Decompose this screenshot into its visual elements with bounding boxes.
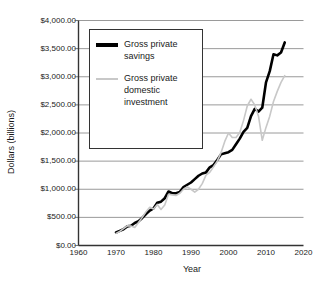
legend-label: Gross private domestic investment <box>124 72 196 108</box>
legend-entry: Gross private domestic investment <box>96 72 196 108</box>
legend-entry: Gross private savings <box>96 38 196 62</box>
chart-container: Dollars (billions) $0.00$500.00$1,000.00… <box>0 0 317 286</box>
legend-label: Gross private savings <box>124 38 196 62</box>
legend-swatch-savings <box>96 43 118 47</box>
legend-swatch-investment <box>96 78 118 80</box>
x-axis-tick-label: 2000 <box>211 248 247 257</box>
x-axis-title: Year <box>78 264 306 274</box>
chart-legend: Gross private savingsGross private domes… <box>89 29 203 149</box>
x-axis-tick-label: 1960 <box>61 248 97 257</box>
x-axis-tick-label: 1970 <box>98 248 134 257</box>
x-axis-tick-label: 2010 <box>248 248 284 257</box>
x-axis-tick-label: 2020 <box>286 248 318 257</box>
x-axis-tick-label: 1990 <box>173 248 209 257</box>
x-axis-tick-label: 1980 <box>136 248 172 257</box>
